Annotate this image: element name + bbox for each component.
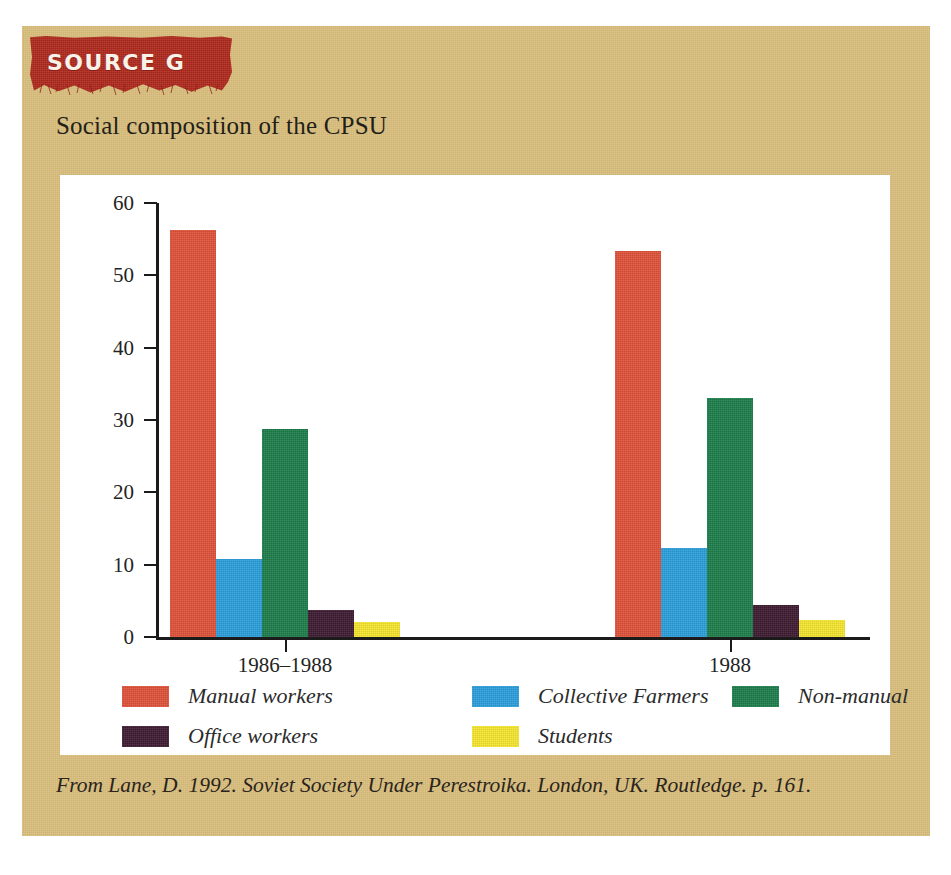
bar: [753, 605, 799, 637]
x-axis-tick-label: 1986–1988: [238, 653, 333, 678]
y-axis-tick-label: 10: [113, 552, 134, 577]
bar: [799, 620, 845, 637]
bar-texture: [262, 429, 308, 637]
x-axis-tick: [285, 640, 287, 652]
bar-texture: [216, 559, 262, 637]
y-axis-tick-label: 30: [113, 408, 134, 433]
x-axis-tick-label: 1988: [709, 653, 751, 678]
bar: [615, 251, 661, 637]
legend-swatch-texture: [472, 686, 519, 707]
y-axis-tick-label: 60: [113, 191, 134, 216]
legend-swatch: [472, 686, 519, 707]
bar: [707, 398, 753, 637]
legend-label: Office workers: [188, 723, 318, 749]
x-axis-tick: [730, 640, 732, 652]
y-axis-tick: [144, 636, 157, 638]
y-axis-tick-label: 40: [113, 335, 134, 360]
y-axis-tick: [144, 491, 157, 493]
legend-label: Students: [538, 723, 613, 749]
y-axis-tick: [144, 274, 157, 276]
y-axis-tick: [144, 419, 157, 421]
bar-chart: 0102030405060 1986–19881988: [60, 175, 890, 675]
bar-texture: [753, 605, 799, 637]
bar-texture: [707, 398, 753, 637]
legend-label: Collective Farmers: [538, 683, 708, 709]
bar: [661, 548, 707, 637]
bar: [170, 230, 216, 637]
legend-swatch: [472, 726, 519, 747]
chart-panel: 0102030405060 1986–19881988 Manual worke…: [60, 175, 890, 755]
legend-item: Office workers: [122, 723, 318, 749]
chart-legend: Manual workersCollective FarmersNon-manu…: [60, 683, 890, 755]
legend-swatch-texture: [122, 686, 169, 707]
legend-swatch: [122, 686, 169, 707]
page-title: Social composition of the CPSU: [56, 112, 387, 140]
legend-item: Manual workers: [122, 683, 333, 709]
bar: [308, 610, 354, 637]
y-axis-tick: [144, 564, 157, 566]
source-banner: SOURCE G: [30, 36, 232, 98]
legend-swatch: [732, 686, 779, 707]
bar-texture: [354, 622, 400, 637]
y-axis-tick: [144, 202, 157, 204]
legend-swatch-texture: [732, 686, 779, 707]
banner-label: SOURCE G: [47, 50, 185, 75]
bar-texture: [615, 251, 661, 637]
legend-item: Students: [472, 723, 613, 749]
legend-swatch-texture: [122, 726, 169, 747]
y-axis-tick-label: 50: [113, 263, 134, 288]
bar: [262, 429, 308, 637]
legend-label: Manual workers: [188, 683, 333, 709]
legend-item: Collective Farmers: [472, 683, 708, 709]
bar-texture: [308, 610, 354, 637]
y-axis-tick: [144, 347, 157, 349]
source-caption: From Lane, D. 1992. Soviet Society Under…: [56, 768, 902, 803]
torn-fibres-icon: [34, 84, 224, 96]
legend-swatch: [122, 726, 169, 747]
x-axis-line: [156, 637, 870, 640]
legend-item: Non-manual: [732, 683, 908, 709]
legend-label: Non-manual: [798, 683, 908, 709]
bar: [354, 622, 400, 637]
bar-texture: [799, 620, 845, 637]
bar: [216, 559, 262, 637]
y-axis-tick-label: 20: [113, 480, 134, 505]
y-axis-tick-label: 0: [124, 625, 135, 650]
source-card: SOURCE G Social composition of the CPSU …: [22, 26, 930, 836]
bar-texture: [170, 230, 216, 637]
bar-texture: [661, 548, 707, 637]
legend-swatch-texture: [472, 726, 519, 747]
